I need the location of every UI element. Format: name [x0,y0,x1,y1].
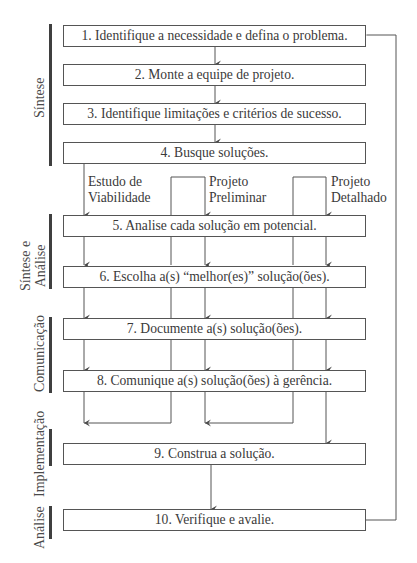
phase-label-sintese: Síntese [33,78,47,118]
phase-bar-sintese [49,24,52,166]
phase-label-analise: Análise [33,506,47,549]
step-7-box: 7. Documente a(s) solução(ões). [63,318,366,340]
design-process-flowchart: 1. Identifique a necessidade e defina o … [0,0,417,563]
step-6-box: 6. Escolha a(s) “melhor(es)” solução(ões… [63,266,366,288]
phase-label-implementacao: Implementação [33,411,47,497]
path-label-detailed: Projeto Detalhado [331,174,387,205]
phase-label-comunicacao: Comunicação [33,315,47,392]
step-4-box: 4. Busque soluções. [63,142,366,164]
phase-bar-comunicacao [49,317,52,393]
phase-bar-analise [49,506,52,539]
step-9-box: 9. Construa a solução. [63,443,366,465]
step-8-box: 8. Comunique a(s) solução(ões) à gerênci… [63,370,366,392]
path-label-feasibility: Estudo de Viabilidade [88,174,151,205]
step-5-box: 5. Analise cada solução em potencial. [63,215,366,237]
step-3-box: 3. Identifique limitações e critérios de… [63,103,366,125]
feedback-loop-arrow [365,35,396,520]
step-1-box: 1. Identifique a necessidade e defina o … [63,25,366,47]
phase-bar-sintese-analise [49,214,52,289]
step-10-box: 10. Verifique e avalie. [63,509,366,531]
path-label-preliminary: Projeto Preliminar [209,174,266,205]
phase-label-sintese-analise: Síntese e Análise [18,241,48,291]
step-2-box: 2. Monte a equipe de projeto. [63,64,366,86]
phase-bar-implementacao [49,429,52,466]
